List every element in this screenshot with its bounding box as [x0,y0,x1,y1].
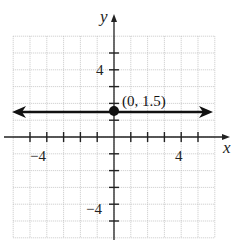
point-0-1-5 [109,106,119,116]
y-axis-arrow-icon [111,14,117,22]
y-axis-label: y [98,7,108,26]
y-tick-label-4: 4 [96,62,104,78]
x-axis-label: x [222,138,231,157]
x-tick-label-neg4: −4 [30,148,46,164]
point-label: (0, 1.5) [122,93,166,110]
coordinate-plane: y x −4 4 4 −4 (0, 1.5) [0,0,234,243]
y-tick-label-neg4: −4 [86,201,102,217]
x-tick-label-4: 4 [175,148,183,164]
